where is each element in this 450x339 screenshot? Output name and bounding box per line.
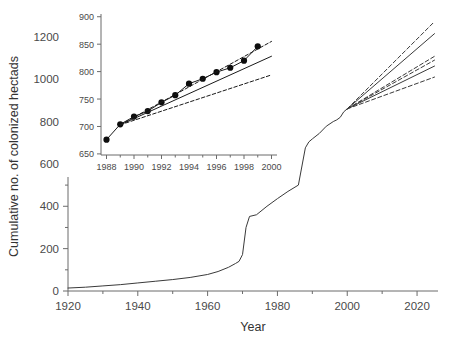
inset-data-point [241, 58, 247, 64]
inset-x-tick-label: 1988 [96, 162, 116, 172]
inset-x-tick-label: 1994 [179, 162, 199, 172]
inset-background [61, 2, 293, 177]
inset-x-tick-label: 1992 [151, 162, 171, 172]
inset-y-tick-label: 700 [79, 122, 94, 132]
inset-y-tick-label: 750 [79, 95, 94, 105]
inset-x-tick-label: 1998 [234, 162, 254, 172]
inset-chart: 6507007508008509001988199019921994199619… [0, 0, 450, 339]
inset-y-tick-label: 850 [79, 40, 94, 50]
figure-container: 0200400600800100012001920194019601980200… [0, 0, 450, 339]
inset-x-tick-label: 1996 [206, 162, 226, 172]
inset-data-point [103, 137, 109, 143]
inset-y-tick-label: 900 [79, 12, 94, 22]
inset-y-tick-label: 650 [79, 149, 94, 159]
inset-x-tick-label: 1990 [124, 162, 144, 172]
inset-x-tick-label: 2000 [261, 162, 281, 172]
inset-y-tick-label: 800 [79, 67, 94, 77]
